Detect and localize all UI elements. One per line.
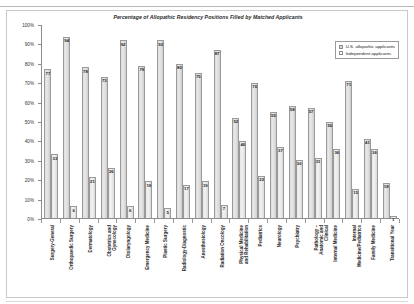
y-axis-tick [38, 103, 41, 104]
bar[interactable]: 37 [277, 147, 284, 218]
bar[interactable]: 19 [202, 181, 209, 218]
chart-frame: Percentage of Allopathic Residency Posit… [6, 10, 408, 298]
y-axis-label: 60% [25, 100, 34, 105]
category-label: Pathology – Anatomic and Clinical [305, 223, 324, 304]
bar[interactable]: 78 [82, 67, 89, 218]
bar-group: 5731 [305, 25, 324, 218]
category-label-text: Transitional Year [390, 225, 395, 261]
bar[interactable]: 33 [51, 154, 58, 218]
bar[interactable]: 80 [176, 64, 183, 218]
bar-value-label: 75 [196, 75, 201, 79]
bar-group: 877 [211, 25, 230, 218]
bar-group: 7022 [249, 25, 268, 218]
bar-value-label: 36 [334, 151, 339, 155]
category-label: Dermatology [79, 223, 98, 304]
legend-swatch-icon [339, 51, 343, 55]
bar[interactable]: 41 [364, 139, 371, 218]
chart-title: Percentage of Allopathic Residency Posit… [7, 14, 409, 20]
category-label-text: Family Medicine [371, 225, 376, 260]
bar[interactable]: 87 [214, 50, 221, 218]
category-label-text: Psychiatry [295, 225, 300, 248]
bar-value-label: 77 [46, 72, 51, 76]
bar-value-label: 7 [223, 207, 225, 211]
bar[interactable]: 40 [239, 141, 246, 218]
bar-group: 5240 [230, 25, 249, 218]
category-label: Radiology-Diagnostic [173, 223, 192, 304]
category-label-text: Pediatrics [258, 225, 263, 247]
bar[interactable]: 36 [333, 149, 340, 218]
bar[interactable]: 19 [145, 181, 152, 218]
bar-value-label: 5 [166, 211, 168, 215]
bar[interactable]: 94 [63, 37, 70, 218]
bar[interactable]: 30 [296, 160, 303, 218]
bar[interactable]: 1 [390, 216, 397, 218]
bar-value-label: 57 [309, 110, 314, 114]
bar[interactable]: 71 [345, 81, 352, 218]
bar-value-label: 19 [203, 184, 208, 188]
bar[interactable]: 73 [101, 77, 108, 218]
category-label: Neurology [267, 223, 286, 304]
bar[interactable]: 26 [108, 168, 115, 218]
bar-value-label: 92 [121, 43, 126, 47]
y-axis-label: 70% [25, 81, 34, 86]
y-axis-tick [38, 83, 41, 84]
legend-item-independent[interactable]: Independent applicants [339, 51, 395, 56]
bottom-divider [6, 301, 408, 302]
category-label-text: Orthopaedic Surgery [69, 225, 74, 270]
y-axis-tick [38, 122, 41, 123]
y-axis-label: 80% [25, 61, 34, 66]
bar[interactable]: 58 [289, 106, 296, 218]
bar[interactable]: 92 [157, 40, 164, 218]
bar[interactable]: 50 [326, 122, 333, 219]
category-label-text: Emergency Medicine [145, 225, 150, 270]
x-axis-tick [399, 219, 400, 223]
bar[interactable]: 52 [232, 118, 239, 218]
bar[interactable]: 17 [183, 185, 190, 218]
bar-value-label: 22 [259, 178, 264, 182]
bar[interactable]: 55 [270, 112, 277, 218]
category-label: Orthopaedic Surgery [60, 223, 79, 304]
y-axis-label: 40% [25, 139, 34, 144]
category-label-text: Internal Medicine [333, 225, 338, 262]
y-axis-tick [38, 200, 41, 201]
y-axis-label: 10% [25, 197, 34, 202]
bar-value-label: 6 [72, 209, 74, 213]
bar-value-label: 71 [346, 83, 351, 87]
y-axis-tick [38, 64, 41, 65]
bar-group: 5830 [286, 25, 305, 218]
bar[interactable]: 22 [258, 176, 265, 218]
category-labels: Surgery-GeneralOrthopaedic SurgeryDermat… [41, 223, 399, 304]
category-label: Plastic Surgery [154, 223, 173, 304]
bar-value-label: 18 [384, 185, 389, 189]
top-divider [0, 6, 414, 7]
legend-item-us-allopathic[interactable]: U.S. allopathic applicants [339, 44, 395, 49]
bar-value-label: 40 [240, 143, 245, 147]
bar[interactable]: 18 [383, 183, 390, 218]
chart-legend: U.S. allopathic applicants Independent a… [335, 41, 399, 59]
category-label: Pediatrics [248, 223, 267, 304]
bar[interactable]: 70 [251, 83, 258, 218]
category-label-text: Dermatology [88, 225, 93, 253]
y-axis-label: 50% [25, 120, 34, 125]
category-label: Psychiatry [286, 223, 305, 304]
bar[interactable]: 6 [127, 206, 134, 218]
bar[interactable]: 57 [308, 108, 315, 218]
bar[interactable]: 36 [371, 149, 378, 218]
y-axis-label: 20% [25, 178, 34, 183]
bar[interactable]: 15 [352, 189, 359, 218]
bar[interactable]: 21 [89, 177, 96, 218]
category-label: Radiation Oncology [211, 223, 230, 304]
bar-value-label: 15 [353, 191, 358, 195]
bar[interactable]: 5 [164, 208, 171, 218]
bar[interactable]: 77 [44, 69, 51, 218]
bar-group: 7733 [42, 25, 61, 218]
bar-value-label: 52 [233, 120, 238, 124]
bar-value-label: 94 [64, 39, 69, 43]
bar[interactable]: 79 [138, 66, 145, 218]
bar[interactable]: 75 [195, 73, 202, 218]
bar[interactable]: 6 [70, 206, 77, 218]
bar[interactable]: 31 [315, 158, 322, 218]
bar-value-label: 78 [83, 70, 88, 74]
bar[interactable]: 7 [221, 205, 228, 219]
bar[interactable]: 92 [120, 40, 127, 218]
